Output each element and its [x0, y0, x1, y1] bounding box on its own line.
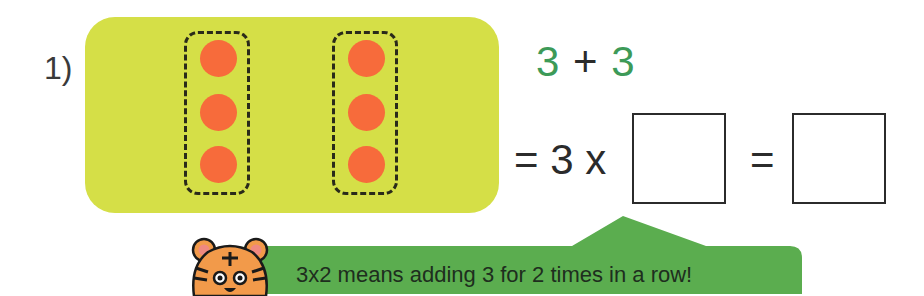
hint-text: 3x2 means adding 3 for 2 times in a row! [296, 262, 692, 288]
tiger-face-icon [188, 236, 272, 296]
